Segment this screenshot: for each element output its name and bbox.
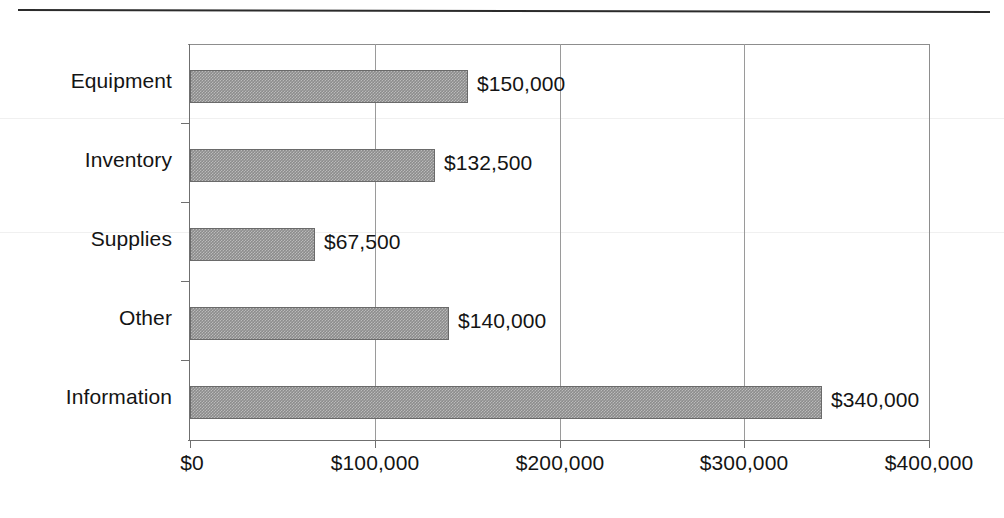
category-label-information: Information [66, 386, 172, 407]
x-tick-400000 [929, 441, 930, 448]
x-axis-label-100000: $100,000 [331, 452, 419, 473]
bar-information[interactable] [190, 386, 822, 419]
y-tick-4 [181, 360, 189, 361]
x-tick-0 [190, 441, 191, 448]
bar-equipment[interactable] [190, 70, 468, 103]
y-tick-2 [181, 202, 189, 203]
x-axis-label-200000: $200,000 [516, 452, 604, 473]
plot-right-border [929, 44, 930, 441]
plot-top-border [188, 44, 930, 45]
category-label-equipment: Equipment [71, 70, 172, 91]
chart-page: Equipment $150,000 Inventory $132,500 Su… [0, 0, 1004, 518]
gridline-200000 [560, 44, 561, 440]
category-label-other: Other [119, 307, 172, 328]
x-axis-line [188, 440, 930, 441]
category-label-supplies: Supplies [91, 228, 172, 249]
x-tick-100000 [375, 441, 376, 448]
x-axis-label-0: $0 [180, 452, 204, 473]
bar-other[interactable] [190, 307, 449, 340]
value-label-other: $140,000 [458, 310, 546, 331]
gridline-300000 [744, 44, 745, 440]
x-axis-label-300000: $300,000 [700, 452, 788, 473]
value-label-equipment: $150,000 [477, 73, 565, 94]
bar-inventory[interactable] [190, 149, 435, 182]
category-label-inventory: Inventory [85, 149, 172, 170]
value-label-inventory: $132,500 [444, 152, 532, 173]
y-tick-3 [181, 281, 189, 282]
x-tick-300000 [744, 441, 745, 448]
value-label-supplies: $67,500 [324, 231, 401, 252]
bar-supplies[interactable] [190, 228, 315, 261]
horizontal-bar-chart: Equipment $150,000 Inventory $132,500 Su… [0, 0, 1004, 518]
x-tick-200000 [560, 441, 561, 448]
x-axis-label-400000: $400,000 [885, 452, 973, 473]
y-tick-1 [181, 123, 189, 124]
value-label-information: $340,000 [831, 389, 919, 410]
